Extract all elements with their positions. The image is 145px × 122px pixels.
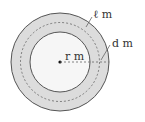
length-label: ℓ m	[93, 8, 113, 21]
ring-diagram: ℓ m d m r m	[0, 0, 145, 122]
width-label: d m	[112, 37, 134, 50]
radius-label: r m	[65, 50, 85, 63]
